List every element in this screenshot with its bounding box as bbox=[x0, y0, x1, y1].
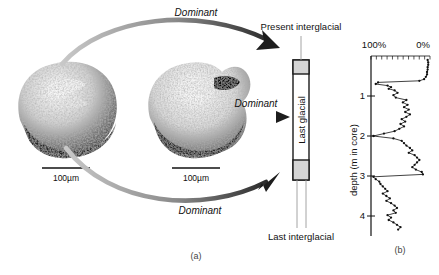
chart-data-point bbox=[401, 140, 403, 142]
chart-data-point bbox=[426, 59, 428, 61]
chart-data-point bbox=[382, 192, 384, 194]
chart-data-point bbox=[425, 76, 427, 78]
chart-data-point bbox=[396, 207, 398, 209]
chart-data-point bbox=[375, 83, 377, 85]
chart-data-point bbox=[403, 142, 405, 144]
specimen-left-scale-label: 100µm bbox=[53, 173, 79, 183]
chart-x-tick-marks bbox=[371, 56, 430, 60]
arrow-top-curved bbox=[62, 20, 280, 64]
core-band-present-interglacial bbox=[293, 60, 309, 74]
chart-data-point bbox=[378, 180, 380, 182]
chart-data-point bbox=[422, 173, 424, 175]
chart-data-point bbox=[405, 144, 407, 146]
chart-data-point bbox=[389, 197, 391, 199]
arrow-top-label: Dominant bbox=[175, 7, 219, 18]
core-top-label: Present interglacial bbox=[261, 21, 342, 32]
chart-data-point bbox=[404, 111, 406, 113]
chart-data-point bbox=[426, 71, 428, 73]
panel-a-caption: (a) bbox=[191, 251, 202, 261]
chart-data-point bbox=[392, 94, 394, 96]
chart-data-point bbox=[418, 159, 420, 161]
chart-data-point bbox=[390, 86, 392, 88]
chart-data-point bbox=[409, 113, 411, 115]
chart-x-label-left: 100% bbox=[362, 39, 387, 50]
chart-data-point bbox=[406, 104, 408, 106]
core-middle-label: Last glacial bbox=[296, 96, 307, 144]
chart-y-tick-label: 1 bbox=[360, 90, 365, 101]
chart-data-point bbox=[390, 202, 392, 204]
chart-y-tick-labels: 1234 bbox=[360, 90, 365, 221]
chart-y-tick-label: 4 bbox=[360, 210, 365, 221]
chart-x-label-right: 0% bbox=[416, 39, 430, 50]
chart-data-point bbox=[415, 168, 417, 170]
chart-data-point bbox=[411, 166, 413, 168]
chart-data-point bbox=[383, 132, 385, 134]
specimen-left bbox=[18, 62, 117, 158]
chart-data-point bbox=[372, 176, 374, 178]
chart-y-tick-label: 3 bbox=[360, 170, 365, 181]
chart-data-point bbox=[401, 118, 403, 120]
chart-data-point bbox=[379, 183, 381, 185]
chart-data-point bbox=[405, 99, 407, 101]
specimen-right-scale-label: 100µm bbox=[183, 173, 209, 183]
chart-data-point bbox=[414, 154, 416, 156]
arrow-bottom-label: Dominant bbox=[179, 205, 223, 216]
arrow-middle-label: Dominant bbox=[235, 98, 279, 109]
chart-data-point bbox=[399, 226, 401, 228]
chart-data-point bbox=[385, 195, 387, 197]
chart-data-point bbox=[426, 66, 428, 68]
chart-data-point bbox=[416, 156, 418, 158]
chart-data-point bbox=[372, 135, 374, 137]
chart-data-point bbox=[398, 128, 400, 130]
specimen-right bbox=[148, 62, 250, 158]
chart-data-point bbox=[423, 78, 425, 80]
chart-data-point bbox=[377, 81, 379, 83]
chart-data-point bbox=[393, 204, 395, 206]
chart-data-point bbox=[396, 92, 398, 94]
chart-data-point bbox=[399, 123, 401, 125]
panel-b-caption: (b) bbox=[395, 245, 406, 255]
chart-data-point bbox=[414, 164, 416, 166]
figure-root: 100µm 100µm Dominant Dominant Dominant P bbox=[0, 0, 439, 275]
chart-data-point bbox=[396, 224, 398, 226]
chart-data-point bbox=[403, 125, 405, 127]
chart-data-point bbox=[388, 88, 390, 90]
chart-data-point bbox=[395, 212, 397, 214]
chart-data-point bbox=[375, 178, 377, 180]
chart-data-point bbox=[386, 84, 388, 86]
chart-data-point bbox=[393, 89, 395, 91]
chart-data-point bbox=[395, 96, 397, 98]
chart-data-point bbox=[388, 219, 390, 221]
chart-data-point bbox=[393, 130, 395, 132]
chart-data-point bbox=[384, 188, 386, 190]
chart-series-line bbox=[373, 60, 428, 230]
chart-data-point bbox=[392, 137, 394, 139]
chart-data-point bbox=[403, 106, 405, 108]
chart-data-point bbox=[408, 108, 410, 110]
chart-data-point bbox=[408, 152, 410, 154]
chart-data-point bbox=[397, 228, 399, 230]
chart-data-point bbox=[404, 120, 406, 122]
chart-data-point bbox=[402, 101, 404, 103]
chart-data-point bbox=[386, 190, 388, 192]
chart-data-point bbox=[392, 221, 394, 223]
chart-data-point bbox=[411, 149, 413, 151]
chart-data-point bbox=[390, 216, 392, 218]
chart-data-point bbox=[427, 64, 429, 66]
chart-data-point bbox=[427, 61, 429, 63]
chart-y-tick-label: 2 bbox=[360, 130, 365, 141]
core-bottom-label: Last interglacial bbox=[268, 231, 334, 242]
chart-data-point bbox=[426, 73, 428, 75]
chart-data-point bbox=[421, 171, 423, 173]
chart-data-point bbox=[382, 185, 384, 187]
chart-data-point bbox=[392, 209, 394, 211]
chart-data-point bbox=[426, 68, 428, 70]
chart-y-axis-label: depth (m in core) bbox=[348, 124, 359, 196]
chart-data-point bbox=[418, 80, 420, 82]
chart-data-point bbox=[416, 161, 418, 163]
chart-data-point bbox=[409, 147, 411, 149]
chart-data-point bbox=[385, 200, 387, 202]
chart-data-point bbox=[405, 116, 407, 118]
core-band-last-interglacial bbox=[293, 160, 309, 180]
depth-profile-chart: 1234 bbox=[360, 56, 430, 236]
